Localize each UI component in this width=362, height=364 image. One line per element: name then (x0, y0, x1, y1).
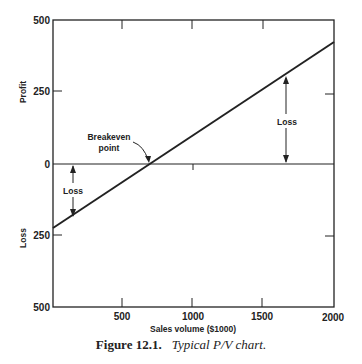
y-axis-label-loss: Loss (18, 228, 28, 248)
figure-title: Typical P/V chart. (172, 337, 266, 352)
svg-text:250: 250 (33, 86, 50, 97)
svg-text:0: 0 (44, 159, 50, 170)
breakeven-label: Breakeven (87, 132, 130, 142)
svg-text:1000: 1000 (182, 311, 205, 322)
profit-annotation: Loss (277, 117, 297, 127)
x-axis-label: Sales volume ($1000) (150, 324, 236, 334)
svg-text:250: 250 (33, 230, 50, 241)
loss-annotation: Loss (63, 186, 83, 196)
svg-text:1500: 1500 (251, 311, 274, 322)
svg-text:500: 500 (33, 302, 50, 313)
svg-text:500: 500 (33, 15, 50, 26)
y-axis-label-profit: Profit (18, 81, 28, 103)
svg-text:500: 500 (114, 311, 131, 322)
svg-text:point: point (99, 143, 120, 153)
svg-text:2000: 2000 (322, 312, 345, 323)
pv-chart: Loss Loss Breakeven point 500 250 0 250 … (0, 0, 362, 364)
figure-caption: Figure 12.1.Typical P/V chart. (0, 337, 362, 353)
figure-number: Figure 12.1. (96, 337, 162, 352)
